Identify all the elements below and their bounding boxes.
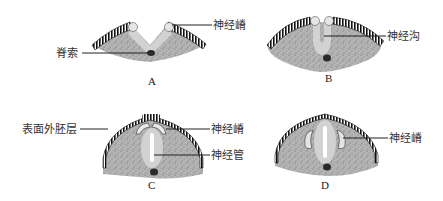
neural-crest-right	[325, 17, 334, 26]
panel-a: 脊索 神经嵴 A	[56, 18, 246, 87]
label-neural-tube: 神经管	[211, 148, 244, 162]
panel-d: 神经嵴 D	[275, 114, 422, 191]
panel-letter-c: C	[148, 179, 155, 191]
panel-c: 表面外胚层 神经嵴 神经管 C	[22, 114, 244, 191]
notochord	[323, 164, 331, 171]
ectoderm-fold	[142, 114, 160, 119]
label-surface-ectoderm: 表面外胚层	[22, 122, 77, 136]
label-notochord: 脊索	[56, 46, 78, 60]
neural-tube-lumen	[150, 133, 154, 162]
label-neural-groove: 神经沟	[387, 29, 420, 43]
panel-b: 神经沟 B	[267, 17, 420, 85]
panel-letter-a: A	[148, 75, 156, 87]
panel-letter-b: B	[325, 72, 332, 84]
label-neural-crest-d: 神经嵴	[389, 131, 422, 145]
neural-crest-left	[311, 17, 320, 26]
notochord	[323, 55, 331, 62]
notochord	[147, 50, 155, 56]
neural-tube-diagram: 脊索 神经嵴 A 神经沟 B 表面外胚层 神经嵴 神经管 C	[0, 0, 443, 201]
neural-crest-left	[129, 23, 138, 32]
label-neural-crest-a: 神经嵴	[213, 18, 246, 32]
label-neural-crest-c: 神经嵴	[211, 122, 244, 136]
panel-letter-d: D	[321, 179, 329, 191]
neural-crest-right	[165, 23, 174, 32]
notochord	[150, 169, 158, 176]
mesoderm-tissue	[92, 24, 205, 62]
neural-tube-lumen	[323, 126, 327, 158]
